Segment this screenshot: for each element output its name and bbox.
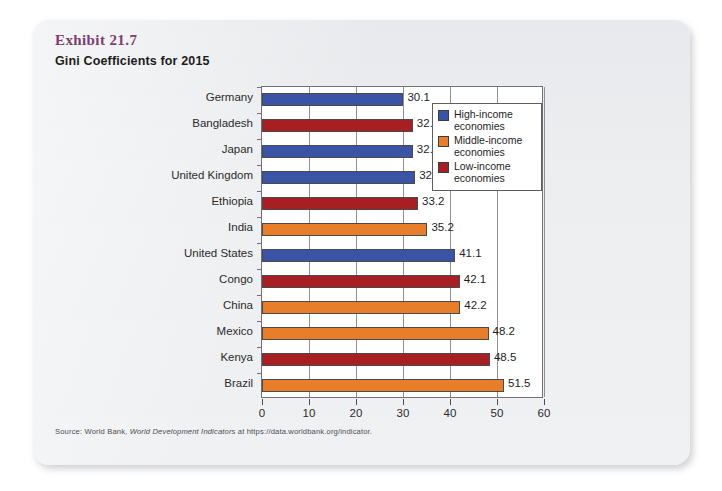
- x-tick-mark: [544, 399, 545, 405]
- bar-india[interactable]: [262, 223, 427, 236]
- bar-united-kingdom[interactable]: [262, 171, 415, 184]
- bar-brazil[interactable]: [262, 379, 504, 392]
- x-tick-mark: [356, 399, 357, 405]
- source-suffix: at https://data.worldbank.org/indicator.: [236, 427, 373, 436]
- y-tick-mark: [257, 295, 262, 296]
- x-axis-tick-label: 10: [289, 407, 329, 419]
- bar-row[interactable]: 51.5: [262, 373, 544, 399]
- bar-row[interactable]: 48.5: [262, 347, 544, 373]
- category-label-kenya: Kenya: [220, 351, 253, 363]
- bar-value-label: 41.1: [459, 247, 481, 259]
- bar-row[interactable]: 41.1: [262, 243, 544, 269]
- legend-label-line2: economies: [454, 147, 522, 159]
- x-axis-tick-label: 50: [477, 407, 517, 419]
- legend-label: Low-incomeeconomies: [454, 161, 511, 184]
- legend-swatch-icon: [438, 136, 449, 147]
- bar-value-label: 48.2: [493, 325, 515, 337]
- bar-japan[interactable]: [262, 145, 413, 158]
- x-tick-mark: [309, 399, 310, 405]
- category-label-japan: Japan: [222, 143, 253, 155]
- y-tick-mark: [257, 165, 262, 166]
- y-tick-mark: [257, 113, 262, 114]
- x-axis-tick-label: 0: [242, 407, 282, 419]
- y-tick-mark: [257, 243, 262, 244]
- x-axis-tick-label: 60: [524, 407, 564, 419]
- category-label-india: India: [228, 221, 253, 233]
- page-title: Gini Coefficients for 2015: [55, 54, 210, 68]
- category-label-mexico: Mexico: [217, 325, 253, 337]
- y-tick-mark: [257, 139, 262, 140]
- category-label-china: China: [223, 299, 253, 311]
- bar-row[interactable]: 33.2: [262, 191, 544, 217]
- bar-value-label: 30.1: [407, 91, 429, 103]
- x-axis-tick-label: 40: [430, 407, 470, 419]
- y-tick-mark: [257, 191, 262, 192]
- bar-mexico[interactable]: [262, 327, 489, 340]
- category-axis: GermanyBangladeshJapanUnited KingdomEthi…: [93, 86, 253, 398]
- legend-label-line2: economies: [454, 173, 511, 185]
- y-tick-mark: [257, 217, 262, 218]
- bar-chart: GermanyBangladeshJapanUnited KingdomEthi…: [33, 20, 690, 465]
- bar-china[interactable]: [262, 301, 460, 314]
- category-label-germany: Germany: [206, 91, 253, 103]
- legend-label: High-incomeeconomies: [454, 109, 513, 132]
- bar-bangladesh[interactable]: [262, 119, 413, 132]
- x-tick-mark: [262, 399, 263, 405]
- source-prefix: Source: World Bank,: [55, 427, 130, 436]
- source-publication: World Development Indicators: [130, 427, 236, 436]
- category-label-united-states: United States: [184, 247, 253, 259]
- bar-congo[interactable]: [262, 275, 460, 288]
- bar-value-label: 42.2: [464, 299, 486, 311]
- x-axis-tick-label: 20: [336, 407, 376, 419]
- legend-label-line1: High-income: [454, 109, 513, 121]
- category-label-united-kingdom: United Kingdom: [171, 169, 253, 181]
- bar-united-states[interactable]: [262, 249, 455, 262]
- category-label-congo: Congo: [219, 273, 253, 285]
- legend-item-middle-income[interactable]: Middle-incomeeconomies: [438, 135, 535, 158]
- exhibit-card: Exhibit 21.7 Gini Coefficients for 2015 …: [33, 20, 690, 465]
- category-label-ethiopia: Ethiopia: [211, 195, 253, 207]
- legend-label: Middle-incomeeconomies: [454, 135, 522, 158]
- legend-swatch-icon: [438, 110, 449, 121]
- chart-legend: High-incomeeconomiesMiddle-incomeeconomi…: [432, 103, 542, 191]
- legend-label-line2: economies: [454, 121, 513, 133]
- y-tick-mark: [257, 321, 262, 322]
- x-axis-tick-label: 30: [383, 407, 423, 419]
- bar-value-label: 35.2: [431, 221, 453, 233]
- bar-row[interactable]: 42.1: [262, 269, 544, 295]
- category-label-brazil: Brazil: [224, 377, 253, 389]
- y-tick-mark: [257, 373, 262, 374]
- x-tick-mark: [497, 399, 498, 405]
- bar-row[interactable]: 42.2: [262, 295, 544, 321]
- legend-label-line1: Middle-income: [454, 135, 522, 147]
- bar-germany[interactable]: [262, 93, 403, 106]
- bar-value-label: 51.5: [508, 377, 530, 389]
- legend-swatch-icon: [438, 162, 449, 173]
- bar-row[interactable]: 35.2: [262, 217, 544, 243]
- bar-value-label: 48.5: [494, 351, 516, 363]
- bar-value-label: 42.1: [464, 273, 486, 285]
- x-tick-mark: [450, 399, 451, 405]
- y-tick-mark: [257, 269, 262, 270]
- legend-item-low-income[interactable]: Low-incomeeconomies: [438, 161, 535, 184]
- bar-value-label: 33.2: [422, 195, 444, 207]
- category-label-bangladesh: Bangladesh: [192, 117, 253, 129]
- y-tick-mark: [257, 347, 262, 348]
- y-tick-mark: [257, 87, 262, 88]
- legend-item-high-income[interactable]: High-incomeeconomies: [438, 109, 535, 132]
- source-note: Source: World Bank, World Development In…: [55, 427, 372, 436]
- bar-ethiopia[interactable]: [262, 197, 418, 210]
- bar-row[interactable]: 48.2: [262, 321, 544, 347]
- exhibit-number: Exhibit 21.7: [55, 32, 137, 49]
- bar-kenya[interactable]: [262, 353, 490, 366]
- x-tick-mark: [403, 399, 404, 405]
- legend-label-line1: Low-income: [454, 161, 511, 173]
